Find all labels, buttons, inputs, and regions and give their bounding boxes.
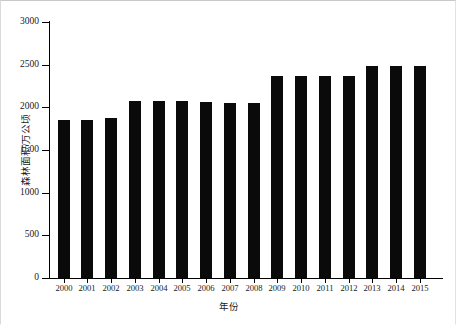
bar: [129, 101, 141, 278]
bar: [224, 103, 236, 278]
bar: [200, 102, 212, 278]
y-tick-mark: [42, 150, 49, 151]
bar-series: [49, 22, 442, 278]
y-tick-mark: [42, 22, 49, 23]
x-tick-label: 2015: [403, 284, 437, 293]
y-axis-title: 森林面积/万公顷: [18, 90, 32, 210]
y-tick-mark: [42, 235, 49, 236]
bar: [343, 76, 355, 278]
bar: [81, 120, 93, 278]
chart-figure: 050010001500200025003000 200020012002200…: [0, 0, 456, 325]
bar: [176, 101, 188, 278]
bar: [295, 76, 307, 278]
x-axis-title: 年份: [1, 299, 456, 313]
bar: [58, 120, 70, 278]
y-tick-mark: [42, 278, 49, 279]
bar: [105, 118, 117, 278]
x-axis-line: [49, 278, 443, 279]
bar: [248, 103, 260, 278]
bar: [366, 66, 378, 278]
y-tick-mark: [42, 107, 49, 108]
bar: [414, 66, 426, 278]
y-tick-mark: [42, 65, 49, 66]
y-axis-title-holder: 森林面积/万公顷: [9, 22, 23, 278]
bar: [153, 101, 165, 278]
bar: [319, 76, 331, 278]
bar: [390, 66, 402, 278]
y-tick-mark: [42, 193, 49, 194]
bar: [271, 76, 283, 278]
